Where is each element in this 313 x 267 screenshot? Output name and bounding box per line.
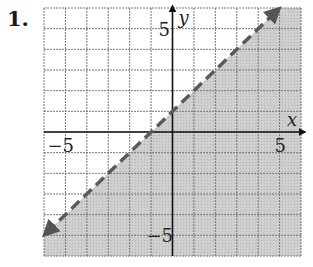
y-axis-label: y (178, 7, 190, 28)
x-tick-label: 5 (275, 135, 286, 156)
y-tick-label: −5 (147, 225, 174, 246)
x-tick-label: −5 (47, 135, 74, 156)
inequality-graph: −555−5xy (0, 0, 313, 267)
x-axis-label: x (287, 109, 297, 130)
y-tick-label: 5 (159, 19, 170, 40)
